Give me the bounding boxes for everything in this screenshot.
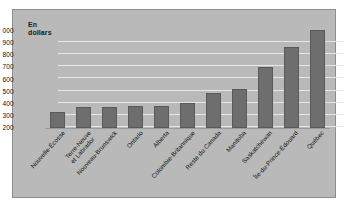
bar[interactable]	[50, 112, 65, 128]
bar-slot	[149, 31, 175, 128]
x-tick-label-line: Québec	[305, 129, 325, 150]
y-tick-label: 500	[2, 88, 14, 95]
bar[interactable]	[310, 30, 325, 128]
y-tick-label: 800	[2, 51, 14, 58]
y-tick-label: 900	[2, 39, 14, 46]
bar-slot	[226, 31, 252, 128]
bar[interactable]	[128, 106, 143, 128]
x-tick-label: Ontario	[125, 129, 144, 149]
y-tick-label: 400	[2, 100, 14, 107]
x-tick-label: Québec	[305, 129, 325, 150]
bar-slot	[304, 31, 330, 128]
y-tick-label: 200	[2, 124, 14, 131]
bar-slot	[252, 31, 278, 128]
y-tick-label: 300	[2, 112, 14, 119]
bar-slot	[45, 31, 71, 128]
bar-slot	[123, 31, 149, 128]
bar[interactable]	[206, 93, 221, 128]
bar[interactable]	[154, 106, 169, 128]
bar-series	[45, 31, 330, 128]
bar-slot	[71, 31, 97, 128]
bar-slot	[175, 31, 201, 128]
y-tick-label: 600	[2, 76, 14, 83]
bar[interactable]	[258, 67, 273, 128]
y-tick-label: 1 000	[0, 27, 14, 34]
bar[interactable]	[76, 107, 91, 128]
y-tick-label: 700	[2, 63, 14, 70]
x-tick-label-line: Alberta	[151, 129, 170, 149]
bar-slot	[97, 31, 123, 128]
bar-slot	[278, 31, 304, 128]
x-tick-label: Manitoba	[225, 129, 248, 153]
x-tick-label-line: Ontario	[125, 129, 144, 149]
bar[interactable]	[180, 103, 195, 128]
bar[interactable]	[284, 47, 299, 128]
x-tick-label-line: Manitoba	[225, 129, 248, 153]
bar[interactable]	[232, 89, 247, 128]
chart-figure: En dollars 1 000900800700600500400300200…	[0, 0, 348, 213]
y-axis-title-line1: En	[28, 21, 52, 29]
bar-slot	[200, 31, 226, 128]
x-axis-labels: Nouvelle-ÉcosseTerre-Neuveet LabradorNou…	[45, 129, 330, 191]
bar[interactable]	[102, 107, 117, 128]
x-tick-label: Alberta	[151, 129, 170, 149]
